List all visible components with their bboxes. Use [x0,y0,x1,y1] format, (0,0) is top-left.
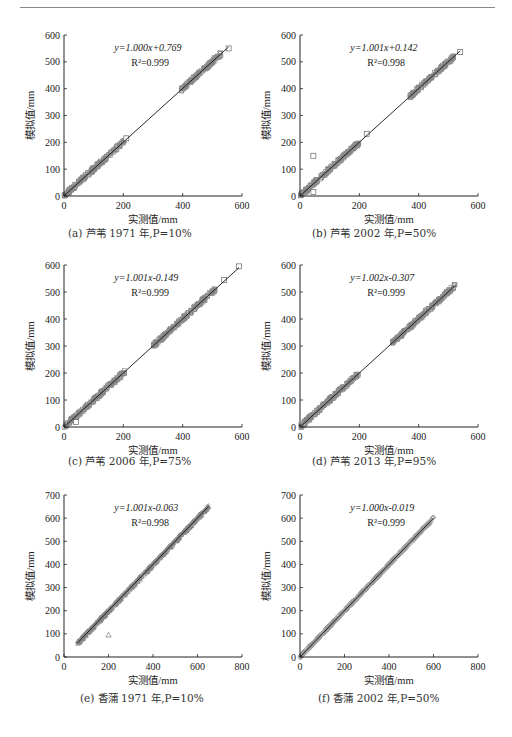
scatter-chart-f: 01002003004005006007000200400600800实测值/m… [260,489,488,689]
x-tick-label: 400 [411,200,426,211]
x-tick-label: 0 [62,431,67,442]
y-tick-label: 200 [45,137,60,148]
y-tick-label: 100 [281,164,296,175]
y-tick-label: 600 [281,513,296,524]
x-tick-label: 800 [471,661,486,672]
y-tick-label: 400 [45,83,60,94]
x-tick-label: 200 [116,431,131,442]
y-tick-label: 500 [281,287,296,298]
x-tick-label: 600 [190,661,205,672]
fit-line [300,518,434,657]
y-tick-label: 300 [45,582,60,593]
y-tick-label: 400 [45,559,60,570]
y-tick-label: 300 [45,341,60,352]
y-tick-label: 300 [45,110,60,121]
x-tick-label: 600 [471,431,486,442]
regression-equation: y=1.001x-0.149 [113,272,178,283]
figure-caption-d: (d) 芦苇 2013 年,P=95% [312,453,436,468]
y-tick-label: 0 [291,652,296,663]
x-tick-label: 0 [62,200,67,211]
fit-line [64,47,229,196]
x-tick-label: 0 [298,431,303,442]
x-tick-label: 200 [116,200,131,211]
y-tick-label: 600 [281,260,296,271]
y-tick-label: 600 [281,30,296,41]
r-squared: R²=0.998 [367,57,405,68]
x-tick-label: 400 [175,200,190,211]
x-axis-label: 实测值/mm [128,213,177,225]
x-axis-label: 实测值/mm [364,674,413,686]
x-tick-label: 400 [175,431,190,442]
y-tick-label: 600 [45,30,60,41]
x-tick-label: 0 [298,661,303,672]
x-tick-label: 600 [471,200,486,211]
y-tick-label: 0 [291,422,296,433]
header-rule [20,7,495,8]
y-tick-label: 400 [281,314,296,325]
scatter-chart-e: 01002003004005006007000200400600800实测值/m… [24,489,252,689]
scatter-chart-c: 01002003004005006000200400600实测值/mm模拟值/m… [24,259,252,459]
y-tick-label: 500 [281,56,296,67]
y-tick-label: 700 [45,490,60,501]
y-tick-label: 200 [281,137,296,148]
y-axis-label: 模拟值/mm [260,91,272,140]
y-tick-label: 400 [45,314,60,325]
y-tick-label: 0 [55,422,60,433]
y-tick-label: 300 [281,110,296,121]
y-tick-label: 500 [45,56,60,67]
y-axis-label: 模拟值/mm [24,551,36,600]
x-tick-label: 200 [101,661,116,672]
y-tick-label: 100 [45,164,60,175]
figure-caption-c: (c) 芦苇 2006 年,P=75% [68,453,191,468]
fit-line [300,51,460,196]
regression-equation: y=1.000x+0.769 [113,42,181,53]
y-tick-label: 700 [281,490,296,501]
x-axis-label: 实测值/mm [128,674,177,686]
regression-equation: y=1.000x-0.019 [349,502,414,513]
y-axis-label: 模拟值/mm [24,91,36,140]
x-tick-label: 200 [352,200,367,211]
y-tick-label: 200 [45,605,60,616]
r-squared: R²=0.999 [367,517,405,528]
x-tick-label: 600 [235,431,250,442]
x-tick-label: 0 [298,200,303,211]
y-tick-label: 500 [45,287,60,298]
r-squared: R²=0.999 [367,287,405,298]
x-tick-label: 200 [352,431,367,442]
scatter-chart-d: 01002003004005006000200400600实测值/mm模拟值/m… [260,259,488,459]
figure-caption-b: (b) 芦苇 2002 年,P=50% [312,225,436,240]
x-tick-label: 400 [411,431,426,442]
x-tick-label: 0 [62,661,67,672]
y-tick-label: 400 [281,559,296,570]
regression-equation: y=1.001x+0.142 [349,42,417,53]
scatter-chart-b: 01002003004005006000200400600实测值/mm模拟值/m… [260,29,488,228]
fit-line [300,285,456,427]
y-axis-label: 模拟值/mm [260,551,272,600]
y-tick-label: 100 [45,395,60,406]
r-squared: R²=0.999 [131,57,169,68]
x-tick-label: 400 [146,661,161,672]
regression-equation: y=1.002x-0.307 [349,272,415,283]
x-axis-label: 实测值/mm [364,213,413,225]
y-tick-label: 400 [281,83,296,94]
y-tick-label: 300 [281,582,296,593]
y-tick-label: 100 [281,628,296,639]
scatter-chart-a: 01002003004005006000200400600实测值/mm模拟值/m… [24,29,252,228]
x-tick-label: 200 [337,661,352,672]
y-tick-label: 200 [281,368,296,379]
figure-caption-f: (f) 香蒲 2002 年,P=50% [318,690,439,705]
y-tick-label: 0 [55,191,60,202]
y-tick-label: 0 [291,191,296,202]
y-tick-label: 500 [45,536,60,547]
x-tick-label: 600 [235,200,250,211]
y-tick-label: 500 [281,536,296,547]
regression-equation: y=1.001x-0.063 [113,502,178,513]
figure-caption-e: (e) 香蒲 1971 年,P=10% [80,690,204,705]
y-tick-label: 300 [281,341,296,352]
x-tick-label: 800 [235,661,250,672]
y-axis-label: 模拟值/mm [260,321,272,370]
y-tick-label: 100 [281,395,296,406]
x-tick-label: 400 [382,661,397,672]
y-tick-label: 0 [55,652,60,663]
y-tick-label: 200 [45,368,60,379]
